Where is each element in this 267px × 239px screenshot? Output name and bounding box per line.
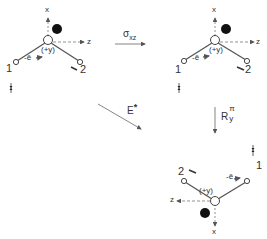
molecule-top-right xyxy=(178,18,255,93)
molecule-top-left xyxy=(10,18,85,93)
inversion-label: E* xyxy=(127,103,137,116)
bond-label: -ē xyxy=(226,173,233,181)
inversion-symbol: E xyxy=(127,105,134,116)
reflection-subscript: xz xyxy=(129,34,136,41)
atom-1-label: 1 xyxy=(6,63,12,74)
axis-x-label: x xyxy=(212,6,216,14)
bond-label: -ē xyxy=(24,54,31,62)
axis-x-label: x xyxy=(45,6,49,14)
center-label: (+y) xyxy=(209,46,223,54)
axis-z-label: z xyxy=(87,38,91,46)
atom-1-label: 1 xyxy=(175,64,181,75)
axis-z-label: z xyxy=(170,196,174,204)
reflection-label: σxz xyxy=(123,29,136,41)
center-label: (+y) xyxy=(41,46,55,54)
rotation-superscript: π xyxy=(229,105,235,113)
axis-z-label: z xyxy=(256,38,260,46)
inversion-superscript: * xyxy=(134,102,138,112)
molecule-bottom-right xyxy=(177,145,255,226)
symmetry-diagram: x z (+y) -ē 1 2 x z (+y) -ē 1 2 x z (+y)… xyxy=(0,0,267,239)
rotation-label: Rπy xyxy=(221,110,236,122)
rotation-symbol: R xyxy=(221,111,228,122)
atom-2-label: 2 xyxy=(245,64,251,75)
center-label: (+y) xyxy=(199,187,213,195)
rotation-subscript: y xyxy=(229,115,233,123)
bond-label: -ē xyxy=(192,54,199,62)
atom-1-label: 1 xyxy=(256,160,262,171)
atom-2-label: 2 xyxy=(80,64,86,75)
axis-x-label: x xyxy=(212,228,216,236)
atom-2-label: 2 xyxy=(178,166,184,177)
